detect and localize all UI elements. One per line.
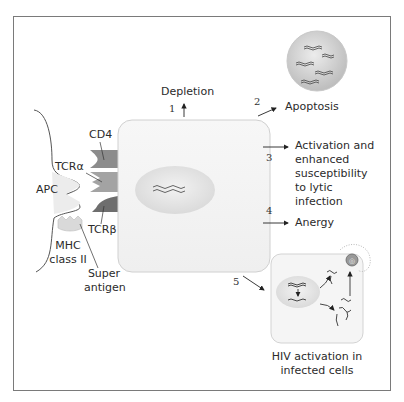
superantigen-line-2: antigen (84, 281, 124, 295)
outcome-number-4: 4 (266, 205, 272, 216)
outcome-number-2: 2 (254, 96, 260, 107)
outcome-number-5: 5 (233, 276, 239, 287)
tcr-beta-label: TCRβ (88, 223, 116, 237)
outcome-label-anergy: Anergy (295, 216, 334, 230)
activation-line-5: infection (295, 195, 390, 209)
activation-line-4: to lytic (295, 181, 390, 195)
cd4-label: CD4 (89, 128, 112, 142)
apc-label: APC (36, 183, 58, 197)
outcome-label-apoptosis: Apoptosis (285, 100, 339, 114)
activation-line-3: susceptibility (295, 167, 390, 181)
superantigen-line-1: Super (84, 267, 124, 281)
outcome-label-activation: Activation and enhanced susceptibility t… (295, 139, 390, 209)
virion-core-icon: ◎ (349, 257, 355, 265)
activation-line-1: Activation and (295, 139, 390, 153)
outcome-number-1: 1 (169, 103, 175, 114)
tcr-alpha-label: TCRα (55, 160, 84, 174)
hiv-line-2: infected cells (271, 364, 363, 378)
outcome-number-3: 3 (266, 152, 272, 163)
mhc-line-1: MHC (48, 239, 88, 253)
activation-line-2: enhanced (295, 153, 390, 167)
arrow-hiv-activation (243, 276, 264, 290)
mhc-line-2: class II (48, 253, 88, 267)
mhc-class-ii-shape (58, 216, 82, 231)
tcr-alpha-receptor (90, 172, 118, 192)
outcome-label-depletion: Depletion (161, 85, 214, 99)
mhc-class-ii-label: MHC class II (48, 239, 88, 267)
tcr-beta-receptor (92, 196, 118, 212)
outcome-label-hiv-activation: HIV activation in infected cells (271, 350, 363, 378)
hiv-line-1: HIV activation in (271, 350, 363, 364)
arrow-apoptosis (258, 108, 276, 116)
superantigen-label: Super antigen (84, 267, 124, 295)
